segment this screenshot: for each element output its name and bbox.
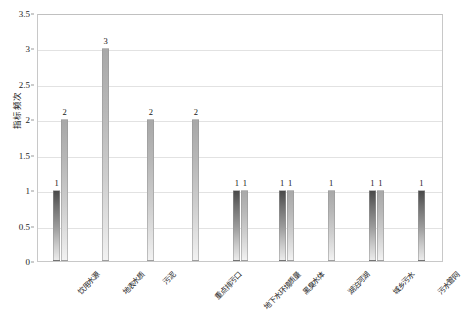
bar-group: 11: [218, 15, 263, 261]
y-tick-mark: [31, 84, 34, 85]
bar[interactable]: 3: [102, 15, 109, 261]
bar-value-label: 1: [370, 178, 374, 188]
bars-layer: 1232211111111: [38, 15, 442, 261]
y-tick-label: 1: [26, 186, 31, 196]
y-tick-label: 2.5: [19, 80, 30, 90]
y-tick-label: 1.5: [19, 151, 30, 161]
bar-value-label: 1: [243, 178, 247, 188]
y-tick-label: 3: [26, 44, 31, 54]
x-tick-label: 饮用水源: [74, 269, 102, 297]
y-tick-mark: [31, 155, 34, 156]
bar-value-label: 1: [378, 178, 382, 188]
y-tick-mark: [31, 191, 34, 192]
bar-fill: [102, 48, 109, 261]
y-tick-mark: [31, 49, 34, 50]
bar[interactable]: 1: [377, 15, 384, 261]
bar-value-label: 2: [62, 107, 66, 117]
bar-value-label: 3: [104, 36, 108, 46]
bar-fill: [369, 190, 376, 261]
bar-value-label: 1: [235, 178, 239, 188]
plot-area: 1232211111111: [37, 14, 443, 262]
bar[interactable]: 2: [147, 15, 154, 261]
x-tick-label: 地表水质: [119, 269, 147, 297]
y-tick-mark: [31, 262, 34, 263]
bar-group: 2: [173, 15, 218, 261]
bar-fill: [287, 190, 294, 261]
bar[interactable]: 1: [233, 15, 240, 261]
bar-fill: [377, 190, 384, 261]
bar-fill: [61, 119, 68, 261]
bar[interactable]: 1: [53, 15, 60, 261]
bar-group: 1: [309, 15, 354, 261]
bar-group: 11: [354, 15, 399, 261]
bar[interactable]: 1: [287, 15, 294, 261]
bar-value-label: 1: [280, 178, 284, 188]
bar-fill: [233, 190, 240, 261]
x-tick-label: 污泥: [160, 269, 178, 287]
x-tick-label: 污水管网: [435, 269, 462, 297]
bar[interactable]: 1: [418, 15, 425, 261]
bar-fill: [279, 190, 286, 261]
bar[interactable]: 1: [279, 15, 286, 261]
bar[interactable]: 2: [192, 15, 199, 261]
bar-group: 1: [399, 15, 444, 261]
y-tick-mark: [31, 14, 34, 15]
bar-fill: [192, 119, 199, 261]
bar-group: 12: [38, 15, 83, 261]
x-tick-label: 湖泊河湖: [344, 269, 372, 297]
y-axis-ticks: 00.511.522.533.5: [0, 0, 34, 314]
y-tick-mark: [31, 120, 34, 121]
x-tick-label: 黑臭水体: [299, 269, 327, 297]
y-tick-label: 0.5: [19, 222, 30, 232]
bar-value-label: 2: [149, 107, 153, 117]
x-axis-labels: 饮用水源地表水质污泥重点排污口地下水环境质量黑臭水体湖泊河湖城乡污水污水管网: [37, 263, 443, 314]
bar-group: 2: [128, 15, 173, 261]
x-tick-label: 重点排污口: [211, 269, 244, 302]
bar-value-label: 1: [419, 178, 423, 188]
bar-value-label: 1: [329, 178, 333, 188]
bar-fill: [53, 190, 60, 261]
bar[interactable]: 1: [241, 15, 248, 261]
y-tick-label: 2: [26, 115, 31, 125]
bar-value-label: 1: [54, 178, 58, 188]
y-tick-label: 3.5: [19, 9, 30, 19]
y-tick-label: 0: [26, 257, 31, 267]
bar-fill: [328, 190, 335, 261]
bar[interactable]: 2: [61, 15, 68, 261]
bar[interactable]: 1: [328, 15, 335, 261]
x-tick-label: 地下水环境质量: [260, 269, 302, 311]
bar-fill: [147, 119, 154, 261]
bar-value-label: 2: [194, 107, 198, 117]
x-tick-label: 城乡污水: [390, 269, 418, 297]
bar[interactable]: 1: [369, 15, 376, 261]
bar-group: 11: [264, 15, 309, 261]
bar-group: 3: [83, 15, 128, 261]
bar-value-label: 1: [288, 178, 292, 188]
bar-fill: [418, 190, 425, 261]
bar-fill: [241, 190, 248, 261]
y-tick-mark: [31, 226, 34, 227]
